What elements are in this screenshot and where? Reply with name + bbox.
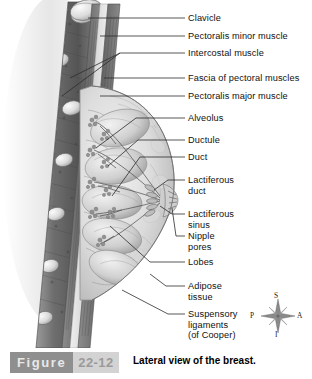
label-suspensory-ligaments: Suspensory ligaments (of Cooper)	[188, 309, 238, 341]
compass-label-superior: S	[274, 291, 278, 300]
figure-word: Figure	[10, 352, 73, 373]
label-clavicle: Clavicle	[188, 13, 221, 24]
label-pectoralis-minor-muscle: Pectoralis minor muscle	[188, 31, 288, 42]
figure-number-bar: Figure 22-12	[10, 352, 119, 373]
compass-label-posterior: P	[250, 311, 254, 320]
figure-panel: Clavicle Pectoralis minor muscle Interco…	[0, 0, 312, 379]
figure-number: 22-12	[73, 352, 118, 373]
label-intercostal-muscle: Intercostal muscle	[188, 48, 264, 59]
label-nipple-pores: Nipple pores	[188, 231, 215, 252]
label-lactiferous-sinus: Lactiferous sinus	[188, 209, 234, 230]
label-fascia-of-pectoral-muscles: Fascia of pectoral muscles	[188, 73, 299, 84]
label-pectoralis-major-muscle: Pectoralis major muscle	[188, 91, 288, 102]
compass-label-anterior: A	[297, 311, 302, 320]
label-lactiferous-duct: Lactiferous duct	[188, 175, 234, 196]
label-duct: Duct	[188, 152, 207, 163]
compass-label-inferior: I	[275, 330, 277, 339]
label-alveolus: Alveolus	[188, 113, 224, 124]
anatomical-orientation-compass: S P A I	[250, 292, 306, 342]
figure-caption: Lateral view of the breast.	[133, 355, 256, 366]
label-adipose-tissue: Adipose tissue	[188, 281, 222, 302]
label-ductule: Ductule	[188, 135, 220, 146]
label-lobes: Lobes	[188, 257, 214, 268]
